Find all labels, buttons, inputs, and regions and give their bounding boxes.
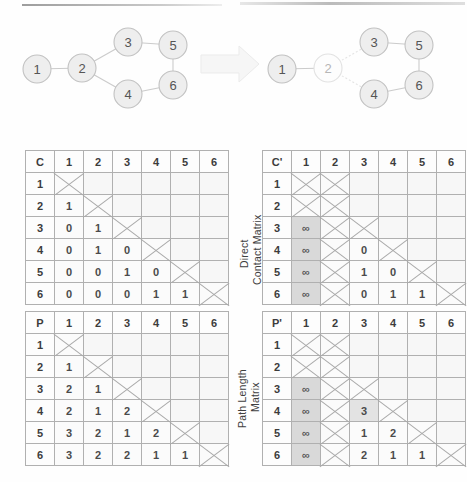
matrix-cell-cross-3-2[interactable] [321,217,350,239]
matrix-cell-cross-1-2[interactable] [321,173,350,195]
matrix-cell-empty-2-5 [171,356,200,378]
matrix-row-header-5: 5 [26,422,55,444]
matrix-cell-cross-2-1[interactable] [292,195,321,217]
matrix-cell-4-3[interactable]: 0 [113,239,142,261]
matrix-cell-cross-1-1[interactable] [55,173,84,195]
matrix-cell-cross-1-1[interactable] [292,334,321,356]
matrix-cell-5-3[interactable]: 1 [113,422,142,444]
matrix-cell-cross-6-2[interactable] [321,283,350,305]
matrix-cell-2-1[interactable]: 1 [55,356,84,378]
matrix-cell-6-3[interactable]: 0 [113,283,142,305]
matrix-cell-cross-5-5[interactable] [171,422,200,444]
matrix-cell-cross-3-3[interactable] [350,217,379,239]
matrix-cell-2-1[interactable]: 1 [55,195,84,217]
matrix-cell-4-1[interactable]: 0 [55,239,84,261]
matrix-cell-cross-5-5[interactable] [408,261,437,283]
matrix-cell-cross-1-1[interactable] [55,334,84,356]
matrix-cell-cross-3-3[interactable] [350,378,379,400]
matrix-cell-5-2[interactable]: 0 [84,261,113,283]
matrix-cell-5-1[interactable]: ∞ [292,422,321,444]
matrix-cell-6-4[interactable]: 1 [379,283,408,305]
matrix-cell-6-4[interactable]: 1 [379,444,408,466]
matrix-cell-cross-6-6[interactable] [200,444,229,466]
matrix-cell-6-3[interactable]: 2 [113,444,142,466]
matrix-cell-3-1[interactable]: ∞ [292,217,321,239]
matrix-cell-6-5[interactable]: 1 [408,444,437,466]
matrix-row: 6∞211 [263,444,466,466]
matrix-cell-3-1[interactable]: ∞ [292,378,321,400]
matrix-cell-cross-6-6[interactable] [437,444,466,466]
matrix-row: 4∞0 [263,239,466,261]
matrix-cell-4-2[interactable]: 1 [84,400,113,422]
matrix-cell-empty-3-5 [171,217,200,239]
matrix-cell-5-3[interactable]: 1 [113,261,142,283]
matrix-cell-cross-4-4[interactable] [142,239,171,261]
matrix-cell-cross-5-2[interactable] [321,422,350,444]
matrix-cell-cross-4-4[interactable] [379,239,408,261]
matrix-cell-5-1[interactable]: 3 [55,422,84,444]
matrix-cell-cross-4-2[interactable] [321,400,350,422]
matrix-cell-cross-2-1[interactable] [292,356,321,378]
graph-node-label-3: 3 [124,35,131,50]
matrix-cell-4-1[interactable]: ∞ [292,400,321,422]
matrix-cell-6-1[interactable]: 3 [55,444,84,466]
matrix-cell-5-1[interactable]: ∞ [292,261,321,283]
matrix-cell-4-1[interactable]: 2 [55,400,84,422]
matrix-cell-5-2[interactable]: 2 [84,422,113,444]
matrix-cell-6-4[interactable]: 1 [142,283,171,305]
matrix-row-header-1: 1 [26,334,55,356]
matrix-cell-cross-1-2[interactable] [321,334,350,356]
matrix-cell-cross-4-4[interactable] [142,400,171,422]
matrix-cell-cross-2-2[interactable] [84,195,113,217]
matrix-cell-3-1[interactable]: 0 [55,217,84,239]
matrix-row-header-1: 1 [263,173,292,195]
matrix-cell-6-3[interactable]: 0 [350,283,379,305]
matrix-cell-cross-6-6[interactable] [437,283,466,305]
matrix-cell-cross-3-3[interactable] [113,378,142,400]
matrix-row: 321 [26,378,229,400]
matrix-cell-6-1[interactable]: 0 [55,283,84,305]
matrix-cell-5-4[interactable]: 0 [142,261,171,283]
matrix-cell-cross-5-5[interactable] [408,422,437,444]
matrix-cell-6-5[interactable]: 1 [171,444,200,466]
matrix-cell-6-3[interactable]: 2 [350,444,379,466]
matrix-cell-6-1[interactable]: ∞ [292,283,321,305]
matrix-cell-6-2[interactable]: 0 [84,283,113,305]
matrix-cell-empty-1-4 [379,173,408,195]
matrix-cell-6-4[interactable]: 1 [142,444,171,466]
matrix-cell-cross-5-5[interactable] [171,261,200,283]
matrix-cell-5-3[interactable]: 1 [350,261,379,283]
matrix-cell-3-2[interactable]: 1 [84,217,113,239]
matrix-cell-6-5[interactable]: 1 [408,283,437,305]
matrix-cell-5-4[interactable]: 2 [142,422,171,444]
matrix-cell-cross-5-2[interactable] [321,261,350,283]
matrix-cell-6-1[interactable]: ∞ [292,444,321,466]
matrix-cell-cross-2-2[interactable] [84,356,113,378]
matrix-cell-4-3[interactable]: 3 [350,400,379,422]
matrix-cell-cross-3-2[interactable] [321,378,350,400]
matrix-cell-4-3[interactable]: 0 [350,239,379,261]
matrix-cell-3-1[interactable]: 2 [55,378,84,400]
matrix-cell-5-1[interactable]: 0 [55,261,84,283]
matrix-cell-cross-4-4[interactable] [379,400,408,422]
matrix-cell-6-5[interactable]: 1 [171,283,200,305]
matrix-cell-cross-2-2[interactable] [321,195,350,217]
matrix-cell-4-1[interactable]: ∞ [292,239,321,261]
matrix-cell-5-3[interactable]: 1 [350,422,379,444]
matrix-cell-cross-1-1[interactable] [292,173,321,195]
matrix-cell-3-2[interactable]: 1 [84,378,113,400]
graph-node-label-4: 4 [370,87,377,102]
matrix-cell-cross-6-2[interactable] [321,444,350,466]
matrix-row-header-5: 5 [26,261,55,283]
matrix-cell-cross-3-3[interactable] [113,217,142,239]
matrix-cell-cross-6-6[interactable] [200,283,229,305]
matrix-cell-5-4[interactable]: 0 [379,261,408,283]
matrix-cell-cross-2-2[interactable] [321,356,350,378]
matrix-cell-empty-2-3 [113,195,142,217]
matrix-cell-4-3[interactable]: 2 [113,400,142,422]
matrix-cell-5-4[interactable]: 2 [379,422,408,444]
matrix-cell-cross-4-2[interactable] [321,239,350,261]
matrix-cell-6-2[interactable]: 2 [84,444,113,466]
matrix-row: 632211 [26,444,229,466]
matrix-cell-4-2[interactable]: 1 [84,239,113,261]
